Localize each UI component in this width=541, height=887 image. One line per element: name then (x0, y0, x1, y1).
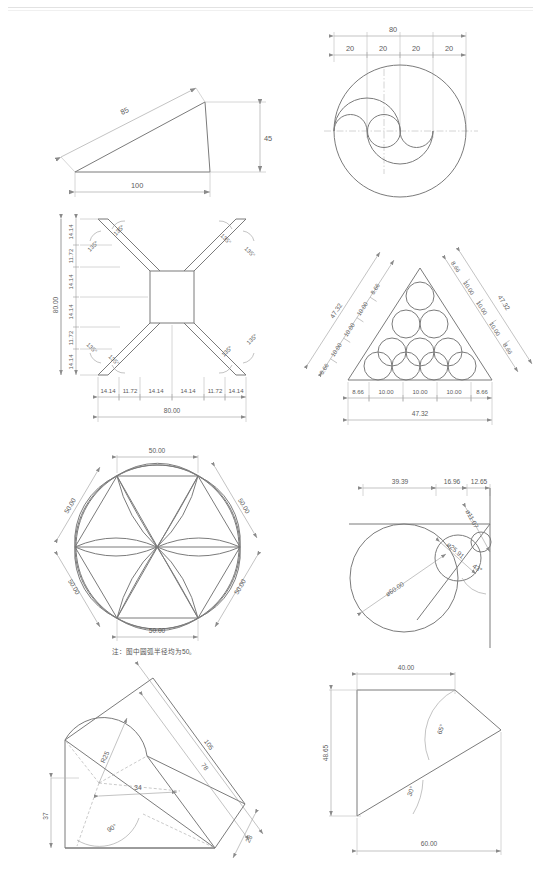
dimension-label: 14.14 (68, 304, 74, 320)
dimension-label: 20 (379, 44, 387, 53)
center-lines (324, 69, 478, 174)
dimension-label: 90° (106, 822, 118, 833)
dimension-48-65: 48.65 (322, 690, 361, 816)
dimension-label: 14.14 (68, 274, 74, 290)
dimension-label: 16.96 (444, 478, 461, 485)
sheet-border-top (8, 7, 533, 8)
dimension-label: 20 (346, 44, 354, 53)
dimension-label: 40.00 (398, 664, 415, 671)
dimension-label: 11.72 (123, 388, 138, 394)
dimension-label: 45 (264, 134, 272, 143)
angle-dimension: 43° (462, 562, 486, 594)
dimension-34: 34 (99, 784, 177, 796)
dimension-label: 47.32 (412, 410, 429, 417)
dimension-label: 34 (134, 784, 142, 791)
figure-arc-polygon-composite: 105 78 28 37 R25 (35, 668, 295, 868)
dimension-label: 8.66 (502, 342, 514, 356)
dimension-label: 60.00 (421, 840, 438, 847)
dimension-label: 10.00 (356, 300, 370, 316)
dimension-label: 80.00 (164, 407, 181, 414)
dimension-label: 10.00 (343, 321, 357, 337)
dimension-label: 100 (131, 181, 143, 190)
dimension-90deg: 90° (77, 818, 139, 846)
dimension-label: 11.72 (68, 248, 74, 263)
shape-outline (357, 690, 501, 816)
top-dimension-chain: 39.39 16.96 12.65 (363, 478, 490, 496)
dimension-label: ø60.00 (384, 580, 405, 598)
dimension-label: 8.66 (319, 362, 331, 376)
left-dimension-chain: 8.66 10.00 10.00 10.00 8.66 47.32 (308, 252, 394, 375)
figure-chamfered-rectangle: 40.00 48.65 60.00 65° (305, 668, 541, 868)
dimension-label: 10.00 (378, 389, 394, 395)
angle-label: 135° (85, 341, 98, 354)
figure-oblique-triangle: 85 45 100 (0, 80, 280, 200)
composite-outline (65, 678, 245, 848)
dimension-label: 80 (389, 25, 397, 34)
dimension-label: 20 (412, 44, 420, 53)
dimension-label: 8.66 (476, 389, 488, 395)
dimension-label: 8.66 (450, 260, 462, 274)
angle-label: 135° (86, 239, 99, 252)
dimension-label: 14.14 (100, 388, 116, 394)
dimension-label: ø11.07 (464, 508, 480, 529)
dimension-30deg: 30° (406, 780, 423, 814)
dimension-label: 43° (471, 562, 483, 574)
dimension-label: 39.39 (392, 478, 409, 485)
dimension-label: 65° (436, 723, 446, 735)
dimension-label: 14.14 (68, 224, 74, 240)
dimension-label: 8.66 (370, 282, 382, 296)
dimension-label: 8.66 (352, 389, 364, 395)
dimension-label: 50.00 (149, 627, 166, 634)
packed-circles (364, 282, 476, 380)
dimension-label: ø25.91 (446, 541, 466, 560)
dimension-label: 20 (445, 44, 453, 53)
dimension-label: 11.72 (208, 388, 223, 394)
dimension-label: 50.00 (149, 447, 166, 454)
dimension-78: 78 (143, 696, 249, 840)
dimension-label: 10.00 (412, 389, 428, 395)
figure-cross-star: 135° 135° 135° 135° 135° 135° 135° 135° (20, 205, 285, 440)
figure-hexagon-flower: 50.00 50.00 50.00 50.00 50.00 50.00 (20, 455, 290, 670)
dimension-label: 48.65 (322, 744, 329, 761)
right-dimension-chain: 8.66 10.00 10.00 10.00 8.66 47.32 (446, 252, 532, 372)
dimension-45: 45 (205, 102, 272, 172)
dimension-label: 78 (200, 761, 210, 771)
figure-yin-yang-construction: 80 20 20 20 20 (300, 14, 541, 194)
dimension-label: 47.32 (328, 302, 343, 320)
dimension-label: 11.72 (68, 330, 74, 345)
dimension-60: 60.00 (357, 732, 501, 855)
dimension-37: 37 (42, 778, 79, 848)
dimension-100: 100 (75, 172, 210, 197)
vertical-dimension-chain: 80.00 14.14 11.72 14.14 14.14 11.72 14.1… (52, 219, 148, 375)
dimension-label: 10.00 (330, 341, 344, 357)
dimension-label: 14.14 (228, 388, 244, 394)
dimension-label: 50.00 (67, 578, 82, 596)
triangle-outline (75, 102, 210, 172)
dimension-65deg: 65° (425, 690, 455, 760)
dimension-label: 47.32 (497, 294, 512, 312)
figure-triangle-packed-circles: 8.66 10.00 10.00 10.00 8.66 47.32 8.66 1… (300, 240, 541, 440)
figure-note: 注：图中圆弧半径均为50。 (112, 647, 196, 656)
angle-label: 135° (245, 332, 258, 345)
dimension-label: 14.14 (148, 388, 164, 394)
dimension-label: 80.00 (52, 296, 59, 313)
angle-label: 135° (243, 245, 256, 258)
dimension-label: 14.14 (68, 354, 74, 370)
dimension-105: 105 (139, 666, 263, 834)
figure-tangent-circles: 39.39 16.96 12.65 (300, 470, 541, 655)
dimension-label: 10.00 (446, 389, 462, 395)
dimension-label: 50.00 (237, 497, 252, 515)
dimension-label: 85 (119, 105, 130, 117)
dimension-label: 37 (42, 812, 49, 820)
horizontal-dimension-chain: 14.14 11.72 14.14 14.14 11.72 14.14 80.0… (98, 325, 246, 422)
dimension-label: 50.00 (63, 497, 78, 515)
bottom-dimension-chain: 8.66 10.00 10.00 10.00 8.66 47.32 (348, 382, 492, 425)
dimension-label: 14.14 (180, 388, 196, 394)
dimension-label: 12.65 (471, 478, 488, 485)
sheet-border-top-secondary (8, 10, 533, 11)
drawing-sheet: 85 45 100 80 (0, 0, 541, 887)
flower-arcs (75, 463, 241, 630)
dimension-28: 28 (233, 814, 255, 858)
dimension-label: R25 (99, 750, 110, 764)
dimension-R25: R25 (99, 718, 127, 783)
